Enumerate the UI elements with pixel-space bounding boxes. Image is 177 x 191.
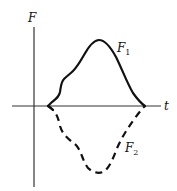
t-axis-label: t xyxy=(164,99,169,113)
f1-curve xyxy=(48,40,145,106)
f-axis-label: F xyxy=(27,11,37,25)
f1-label: F1 xyxy=(116,41,130,57)
force-time-diagram: F t F1 F2 xyxy=(0,0,177,191)
f2-curve xyxy=(48,106,145,173)
f2-label: F2 xyxy=(124,141,138,157)
